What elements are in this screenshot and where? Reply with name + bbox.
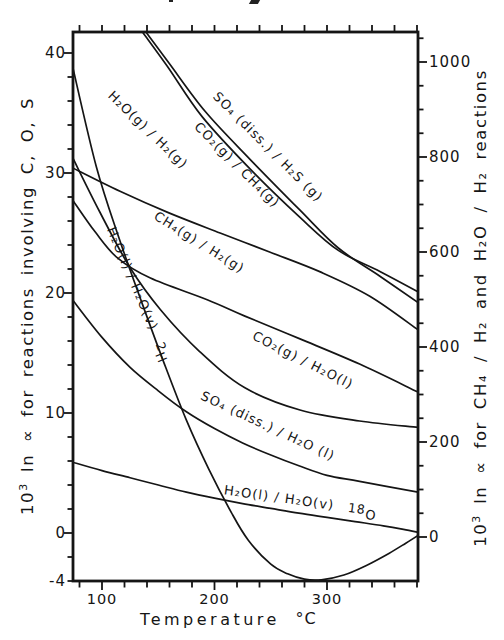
isotope-element-symbol: H bbox=[152, 350, 170, 366]
curve-label-text: CO₂(g) / H₂O(l) bbox=[250, 328, 356, 392]
y-left-tick-label: 40 bbox=[45, 44, 66, 62]
y-right-tick-label: 800 bbox=[429, 148, 461, 166]
y-right-tick-label: 200 bbox=[429, 433, 461, 451]
y-right-tick-label: 0 bbox=[429, 528, 440, 546]
curve-label-text: CH₄(g) / H₂(g) bbox=[151, 208, 247, 276]
left-title-rest: ln ∝ for reactions involving C, O, S bbox=[18, 97, 37, 484]
curve-label-text: H₂O(g) / H₂(g) bbox=[105, 88, 191, 172]
cropped-caption-fragment bbox=[169, 0, 173, 2]
curve-label-h2o-lv-2h: H₂O(l) / H₂O(v)2H bbox=[100, 225, 175, 366]
curve-label-h2o-g-h2: H₂O(g) / H₂(g) bbox=[105, 88, 191, 172]
y-left-tick-label: 30 bbox=[45, 164, 66, 182]
isotope-element-symbol: O bbox=[364, 507, 377, 523]
curve-co2-h2o bbox=[73, 158, 418, 427]
y-right-tick-label: 400 bbox=[429, 338, 461, 356]
right-title-sup: 3 bbox=[470, 516, 483, 523]
x-axis-title: Temperature bbox=[140, 610, 280, 629]
x-tick-label: 200 bbox=[199, 591, 230, 607]
right-axis-title: 103 ln ∝ for CH₄ / H₂ and H₂O / H₂ react… bbox=[470, 69, 491, 547]
right-title-base: 10 bbox=[471, 523, 490, 547]
isotope-fractionation-chart: 403020100-410008006004002000100200300SO₄… bbox=[0, 0, 504, 640]
left-title-base: 10 bbox=[18, 491, 37, 515]
figure: 403020100-410008006004002000100200300SO₄… bbox=[0, 0, 504, 640]
curve-label-co2-ch4: CO₂(g) / CH₄(g) bbox=[191, 119, 283, 211]
y-left-tick-label: 10 bbox=[45, 404, 66, 422]
curve-label-h2o-lv-18o: H₂O(l) / H₂O(v)18O bbox=[222, 482, 378, 523]
x-axis-unit: °C bbox=[295, 609, 316, 628]
isotope-mass-number: 18 bbox=[347, 500, 367, 517]
curve-so4-h2o bbox=[73, 300, 418, 492]
curve-label-ch4-h2: CH₄(g) / H₂(g) bbox=[151, 208, 247, 276]
left-title-sup: 3 bbox=[17, 484, 30, 491]
x-tick-label: 100 bbox=[87, 591, 118, 607]
y-left-tick-label: 0 bbox=[55, 524, 66, 542]
left-axis-title: 103 ln ∝ for reactions involving C, O, S bbox=[17, 97, 38, 515]
curve-ch4-h2 bbox=[73, 200, 418, 392]
y-right-tick-label: 600 bbox=[429, 243, 461, 261]
y-right-tick-label: 1000 bbox=[429, 53, 471, 71]
right-title-rest: ln ∝ for CH₄ / H₂ and H₂O / H₂ reactions bbox=[471, 69, 490, 516]
curve-label-text: CO₂(g) / CH₄(g) bbox=[191, 119, 283, 211]
x-tick-label: 300 bbox=[312, 591, 343, 607]
curve-label-co2-h2o: CO₂(g) / H₂O(l) bbox=[250, 328, 356, 392]
curve-label-text: H₂O(l) / H₂O(v) bbox=[223, 482, 335, 512]
y-left-tick-label: -4 bbox=[49, 572, 66, 590]
y-left-tick-label: 20 bbox=[45, 284, 66, 302]
